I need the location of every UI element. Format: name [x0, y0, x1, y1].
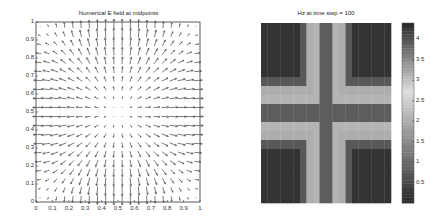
x-tick-label: 0.3	[79, 205, 91, 211]
heatmap-plot: Hz at time step = 100 43.532.521.510.5	[222, 0, 445, 222]
y-tick-label: 1	[31, 18, 34, 24]
x-tick-label: 0.1	[46, 205, 58, 211]
colorbar-tick-label: 4	[416, 35, 419, 41]
colorbar-tick-label: 2.5	[416, 97, 424, 103]
y-tick-label: 0.9	[26, 36, 34, 42]
colorbar-tick-label: 3.5	[416, 56, 424, 62]
x-tick-label: 0.5	[112, 205, 124, 211]
y-tick-label: 0.5	[26, 108, 34, 114]
colorbar-tick-label: 2	[416, 117, 419, 123]
y-tick-label: 0.7	[26, 72, 34, 78]
y-tick-label: 0.3	[26, 144, 34, 150]
x-tick-label: 0.2	[63, 205, 75, 211]
colorbar-tick-label: 0.5	[416, 179, 424, 185]
quiver-plot: Numerical E field at midpoints 00.10.20.…	[0, 0, 222, 222]
y-tick-label: 0.1	[26, 180, 34, 186]
x-tick-label: 0.8	[161, 205, 173, 211]
heatmap-image	[222, 0, 445, 222]
x-tick-label: 0.4	[96, 205, 108, 211]
y-tick-label: 0.2	[26, 162, 34, 168]
x-tick-label: 1	[194, 205, 206, 211]
colorbar-tick-label: 1	[416, 158, 419, 164]
colorbar-tick-label: 3	[416, 76, 419, 82]
y-tick-label: 0.8	[26, 54, 34, 60]
x-tick-label: 0.6	[128, 205, 140, 211]
x-tick-label: 0	[30, 205, 42, 211]
y-tick-label: 0.6	[26, 90, 34, 96]
x-tick-label: 0.9	[178, 205, 190, 211]
y-tick-label: 0	[31, 198, 34, 204]
x-tick-label: 0.7	[145, 205, 157, 211]
colorbar-tick-label: 1.5	[416, 138, 424, 144]
y-tick-label: 0.4	[26, 126, 34, 132]
